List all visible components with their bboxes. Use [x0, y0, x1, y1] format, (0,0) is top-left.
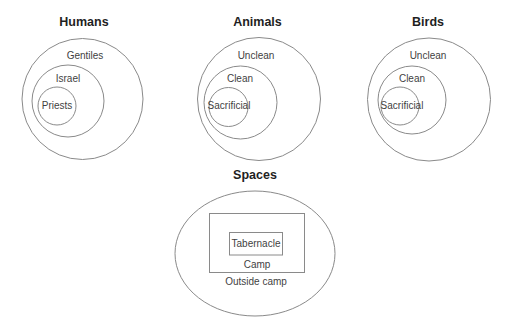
nested-sets-figure: Humans Gentiles Israel Priests Animals U…: [0, 0, 508, 335]
spaces-outer-label: Outside camp: [225, 276, 287, 287]
humans-title: Humans: [59, 15, 108, 29]
spaces-diagram: Spaces Tabernacle Camp Outside camp: [175, 168, 335, 316]
spaces-title: Spaces: [233, 168, 277, 182]
animals-outer-label: Unclean: [238, 50, 275, 61]
spaces-inner-label: Tabernacle: [232, 238, 281, 249]
birds-outer-label: Unclean: [410, 50, 447, 61]
animals-diagram: Animals Unclean Clean Sacrificial: [198, 15, 321, 161]
birds-diagram: Birds Unclean Clean Sacrificial: [368, 15, 491, 161]
animals-inner-label: Sacrificial: [208, 100, 251, 111]
spaces-middle-label: Camp: [244, 259, 271, 270]
humans-inner-label: Priests: [42, 100, 73, 111]
birds-inner-label: Sacrificial: [381, 100, 424, 111]
animals-title: Animals: [233, 15, 282, 29]
spaces-outer-ellipse: [175, 191, 335, 316]
birds-title: Birds: [412, 15, 444, 29]
humans-outer-label: Gentiles: [67, 50, 104, 61]
animals-middle-label: Clean: [227, 73, 253, 84]
diagram-canvas: Humans Gentiles Israel Priests Animals U…: [0, 0, 508, 335]
birds-middle-label: Clean: [399, 73, 425, 84]
humans-middle-label: Israel: [56, 73, 80, 84]
humans-diagram: Humans Gentiles Israel Priests: [22, 15, 143, 160]
